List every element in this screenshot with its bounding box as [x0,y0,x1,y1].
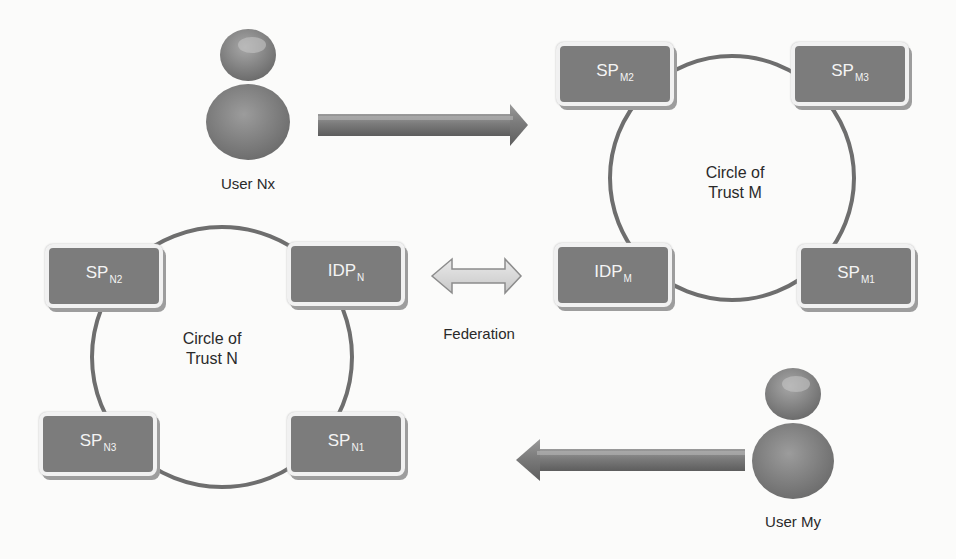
node-sp-n2: SPN2 [45,244,163,308]
node-sp-m3: SPM3 [791,42,909,106]
left-arrow-icon [516,439,745,481]
node-idp-n: IDPN [287,242,405,306]
node-base: SP [831,61,854,80]
node-sp-n1: SPN1 [287,412,405,476]
right-arrow-icon [318,104,528,146]
node-sp-m1: SPM1 [797,244,915,308]
node-base: SP [80,431,103,450]
user-nx-icon [206,29,290,160]
node-subscript: M [624,273,632,284]
circle-of-trust-m-label: Circle of Trust M [690,163,780,203]
federation-label: Federation [424,324,534,344]
node-sp-n3: SPN3 [39,412,157,476]
user-nx-label: User Nx [203,174,293,194]
node-base: SP [86,263,109,282]
node-subscript: N [357,272,364,283]
node-base: IDP [594,262,622,281]
circle-n-label-line2: Trust N [167,349,257,369]
node-subscript: N2 [109,274,122,285]
node-subscript: M3 [855,72,869,83]
user-my-label: User My [748,512,838,532]
node-base: SP [328,431,351,450]
circle-m-label-line2: Trust M [690,183,780,203]
node-subscript: M1 [861,274,875,285]
node-subscript: N3 [103,442,116,453]
node-base: SP [596,61,619,80]
user-my-icon [752,368,834,499]
node-base: SP [837,263,860,282]
circle-m-label-line1: Circle of [690,163,780,183]
circle-of-trust-n-label: Circle of Trust N [167,329,257,369]
federation-double-arrow-icon [432,259,521,293]
node-idp-m: IDPM [554,243,672,307]
circle-n-label-line1: Circle of [167,329,257,349]
node-subscript: N1 [351,442,364,453]
node-sp-m2: SPM2 [556,42,674,106]
node-subscript: M2 [620,72,634,83]
node-base: IDP [328,261,356,280]
